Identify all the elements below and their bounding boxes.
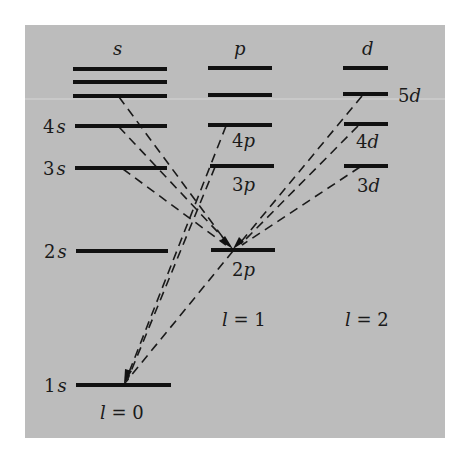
label-l-1: l = 1: [222, 309, 266, 330]
column-header-p: p: [234, 38, 246, 59]
label-4d: 4d: [356, 131, 379, 152]
label-4s: 4s: [43, 116, 66, 137]
label-l-0: l = 0: [100, 402, 144, 423]
label-l-2: l = 2: [345, 309, 389, 330]
label-1s: 1s: [44, 375, 67, 396]
label-2s: 2s: [44, 241, 67, 262]
energy-level-diagram: s p d 4s 3s 2s 1s 4p 3p 2p 5d 4d 3d: [0, 0, 468, 450]
column-header-s: s: [113, 38, 122, 59]
label-3p: 3p: [232, 174, 255, 195]
label-4p: 4p: [232, 130, 255, 151]
label-5d: 5d: [398, 85, 421, 106]
label-3s: 3s: [43, 158, 66, 179]
label-3d: 3d: [357, 175, 380, 196]
diagram-panel: [25, 25, 445, 438]
column-header-d: d: [362, 38, 374, 59]
label-2p: 2p: [232, 259, 255, 280]
